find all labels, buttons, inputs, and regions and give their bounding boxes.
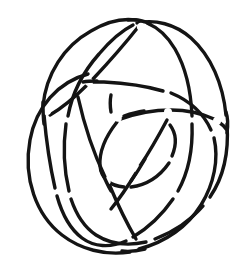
over-strand-right-edge bbox=[226, 112, 228, 133]
over-strand-left-edge bbox=[43, 102, 44, 124]
knot-figure bbox=[0, 0, 244, 275]
gap-crossing-right-edge bbox=[213, 117, 221, 125]
knot-diagram-svg bbox=[0, 0, 244, 275]
over-strand-left bbox=[83, 81, 97, 82]
gap-crossing-inner-top bbox=[114, 114, 122, 122]
inner-petal-top bbox=[110, 95, 111, 112]
gap-crossing-right-upper bbox=[164, 108, 172, 116]
canvas-background bbox=[0, 0, 244, 275]
gap-crossing-top bbox=[137, 23, 145, 31]
